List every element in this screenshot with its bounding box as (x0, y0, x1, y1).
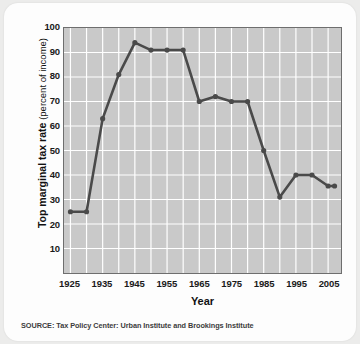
x-tick-label-2005: 2005 (309, 278, 349, 289)
chart-page: 100908070605040302010 192519351945195519… (0, 0, 360, 344)
x-axis-tick-labels: 192519351945195519651975198519952005 (63, 278, 342, 292)
x-axis-title: Year (63, 295, 342, 307)
y-axis-title-strong: Top marginal tax rate (36, 123, 48, 228)
source-note: SOURCE: Tax Policy Center: Urban Institu… (21, 321, 341, 330)
y-axis-title-light: (percent of income) (37, 38, 48, 120)
chart-card: 100908070605040302010 192519351945195519… (4, 3, 356, 341)
plot-area (63, 27, 342, 274)
data-series-line (64, 28, 341, 273)
y-axis-title: Top marginal tax rate (percent of income… (36, 8, 48, 258)
